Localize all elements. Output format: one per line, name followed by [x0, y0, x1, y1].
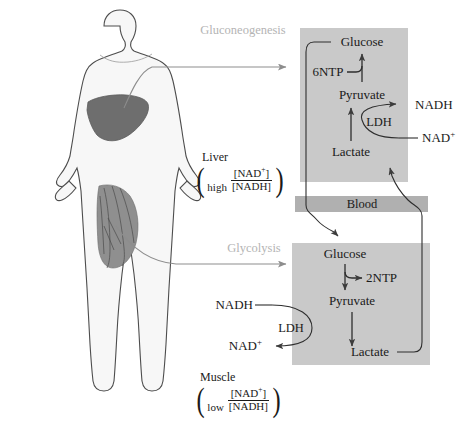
muscle-redox-ratio: ( low [NAD+] [NADH] ) [195, 383, 282, 417]
liver-ratio-qualifier: high [207, 181, 227, 193]
ntp-input-connector [347, 66, 362, 72]
liver-ratio-denominator: [NADH] [231, 180, 272, 193]
liver-ratio-fraction: [NAD+] [NADH] [231, 168, 272, 193]
muscle-ratio-denominator: [NADH] [228, 400, 269, 413]
muscle-nad-plus-label: NAD+ [229, 338, 262, 354]
liver-ntp-label: 6NTP [312, 64, 343, 80]
liver-ratio-numerator: [NAD+] [233, 168, 270, 180]
liver-nad-text: NAD [422, 130, 450, 145]
muscle-ldh-label: LDH [278, 321, 304, 336]
gluconeogenesis-caption: Gluconeogenesis [200, 23, 285, 38]
liver-num-text: [NAD [234, 167, 262, 179]
liver-redox-ratio: ( high [NAD+] [NADH] ) [195, 163, 285, 197]
blood-label: Blood [347, 197, 378, 212]
muscle-ratio-open-paren: ( [197, 383, 205, 417]
liver-nad-charge: + [450, 129, 455, 139]
liver-pyruvate-label: Pyruvate [339, 87, 385, 103]
liver-to-gluconeogenesis-arrow [124, 67, 286, 108]
liver-glucose-label: Glucose [341, 34, 384, 50]
muscle-lactate-to-blood-to-liver [390, 168, 422, 352]
muscle-ratio-fraction: [NAD+] [NADH] [228, 388, 269, 413]
muscle-ratio-numerator: [NAD+] [230, 388, 267, 400]
muscle-lactate-label: Lactate [351, 344, 389, 360]
muscle-ratio-close-paren: ) [273, 383, 281, 417]
liver-num-tail: ] [265, 167, 269, 179]
muscle-nadh-label: NADH [215, 297, 253, 313]
muscle-nad-text: NAD [229, 338, 257, 353]
liver-ratio-close-paren: ) [276, 163, 284, 197]
muscle-ratio-qualifier: low [207, 401, 224, 413]
liver-nad-plus-label: NAD+ [422, 130, 455, 146]
muscle-nad-charge: + [257, 337, 262, 347]
muscle-num-tail: ] [262, 387, 266, 399]
liver-nadh-label: NADH [415, 97, 453, 113]
liver-ldh-label: LDH [366, 115, 392, 130]
muscle-num-text: [NAD [231, 387, 259, 399]
muscle-ntp-label: 2NTP [366, 270, 397, 286]
liver-ratio-open-paren: ( [197, 163, 205, 197]
muscle-pyruvate-label: Pyruvate [329, 293, 375, 309]
muscle-glucose-label: Glucose [324, 246, 367, 262]
ntp-output-arrow [345, 272, 362, 278]
cori-cycle-diagram: Gluconeogenesis Glycolysis Blood Glucose… [0, 0, 469, 424]
glycolysis-caption: Glycolysis [227, 241, 280, 256]
pathway-connectors [0, 0, 469, 424]
liver-lactate-label: Lactate [332, 144, 370, 160]
